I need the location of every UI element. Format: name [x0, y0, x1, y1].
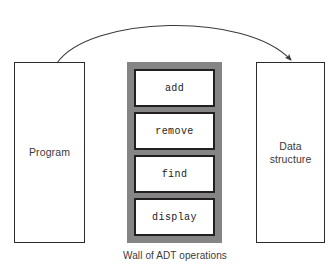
- operation-box-find: find: [134, 155, 215, 193]
- operation-box-add: add: [134, 69, 215, 107]
- adt-wall-diagram: Program add remove find display Wall of …: [0, 0, 335, 274]
- program-label: Program: [29, 146, 70, 159]
- operation-label: add: [165, 83, 184, 94]
- data-structure-label: Data structure: [270, 140, 312, 166]
- adt-wall: add remove find display: [127, 62, 222, 243]
- data-structure-box: Data structure: [256, 62, 325, 243]
- operation-box-display: display: [134, 198, 215, 236]
- operation-label: find: [162, 169, 188, 180]
- curved-arrow-icon: [57, 25, 291, 63]
- operation-label: remove: [155, 126, 193, 137]
- operation-box-remove: remove: [134, 112, 215, 150]
- operation-label: display: [152, 212, 197, 223]
- wall-caption: Wall of ADT operations: [85, 250, 265, 261]
- program-box: Program: [14, 62, 85, 243]
